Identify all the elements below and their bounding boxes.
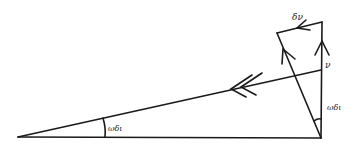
delta-v-label: δν (292, 12, 303, 22)
omega-dt-left-label: ωδι (108, 124, 122, 133)
delta-v-line (277, 22, 322, 33)
v-label: ν (325, 60, 331, 70)
vertical-line (321, 22, 322, 138)
angle-arc-right (314, 119, 321, 121)
long-vector-line (18, 70, 321, 137)
vector-diagram: δν ν ωδι ωδι (0, 0, 355, 152)
base-line (18, 137, 321, 138)
omega-dt-right-label: ωδι (327, 103, 341, 112)
double-arrow-icon (231, 73, 262, 97)
angle-arc-left (103, 118, 105, 137)
